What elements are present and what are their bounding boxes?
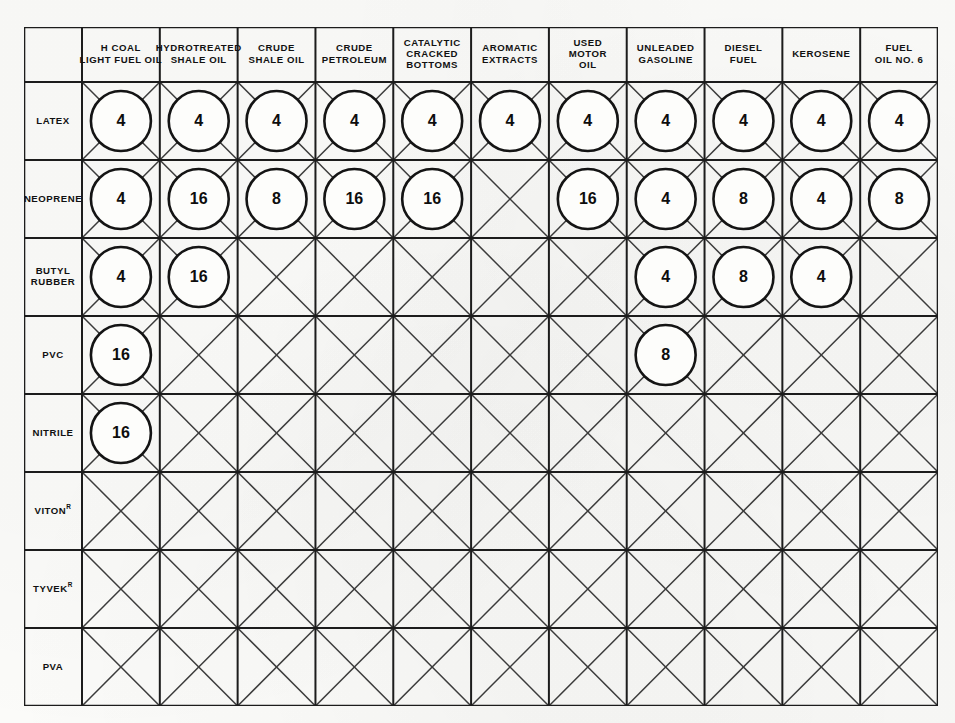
column-header-used-motor-oil: USED xyxy=(573,37,602,48)
compatibility-matrix: H COALLIGHT FUEL OILHYDROTREATEDSHALE OI… xyxy=(24,27,938,706)
scanned-page: H COALLIGHT FUEL OILHYDROTREATEDSHALE OI… xyxy=(0,0,955,723)
column-header-labels: H COALLIGHT FUEL OILHYDROTREATEDSHALE OI… xyxy=(80,37,924,70)
row-header-tyvek: TYVEKR xyxy=(33,581,73,593)
column-header-aromatic-extracts: AROMATIC xyxy=(482,42,537,53)
row-header-latex: LATEX xyxy=(36,115,70,126)
rating-value: 4 xyxy=(817,112,826,129)
column-header-h-coal-light-fuel-oil: LIGHT FUEL OIL xyxy=(80,54,163,65)
column-header-hydrotreated-shale-oil: HYDROTREATED xyxy=(156,42,242,53)
rating-value: 16 xyxy=(112,424,130,441)
column-header-diesel-fuel: FUEL xyxy=(730,54,757,65)
column-header-h-coal-light-fuel-oil: H COAL xyxy=(101,42,141,53)
row-header-viton: VITONR xyxy=(34,503,71,515)
column-header-crude-petroleum: CRUDE xyxy=(336,42,373,53)
column-header-catalytic-cracked-bottoms: BOTTOMS xyxy=(406,59,458,70)
column-header-crude-petroleum: PETROLEUM xyxy=(322,54,387,65)
rating-value: 8 xyxy=(272,190,281,207)
column-header-used-motor-oil: OIL xyxy=(579,59,597,70)
column-header-catalytic-cracked-bottoms: CRACKED xyxy=(406,48,458,59)
rating-value: 16 xyxy=(190,190,208,207)
rating-value: 8 xyxy=(895,190,904,207)
column-header-unleaded-gasoline: UNLEADED xyxy=(637,42,695,53)
rating-value: 8 xyxy=(739,268,748,285)
column-header-used-motor-oil: MOTOR xyxy=(569,48,607,59)
row-header-pva: PVA xyxy=(43,661,64,672)
column-header-diesel-fuel: DIESEL xyxy=(724,42,762,53)
rating-value: 4 xyxy=(739,112,748,129)
rating-value: 8 xyxy=(661,346,670,363)
rating-value: 4 xyxy=(428,112,437,129)
rating-value: 16 xyxy=(579,190,597,207)
rating-value: 4 xyxy=(116,190,125,207)
rating-value: 4 xyxy=(817,268,826,285)
column-header-unleaded-gasoline: GASOLINE xyxy=(638,54,693,65)
rating-value: 4 xyxy=(506,112,515,129)
rating-value: 16 xyxy=(112,346,130,363)
column-header-hydrotreated-shale-oil: SHALE OIL xyxy=(171,54,227,65)
rating-value: 4 xyxy=(116,112,125,129)
rating-value: 4 xyxy=(272,112,281,129)
column-header-aromatic-extracts: EXTRACTS xyxy=(482,54,538,65)
rating-value: 16 xyxy=(345,190,363,207)
matrix-svg: H COALLIGHT FUEL OILHYDROTREATEDSHALE OI… xyxy=(24,27,938,706)
column-header-fuel-oil-no-6: OIL NO. 6 xyxy=(875,54,924,65)
rating-value: 4 xyxy=(350,112,359,129)
registered-trademark-mark: R xyxy=(66,503,71,510)
row-header-pvc: PVC xyxy=(42,349,63,360)
rating-value: 4 xyxy=(661,190,670,207)
registered-trademark-mark: R xyxy=(68,581,73,588)
row-header-neoprene: NEOPRENE xyxy=(24,193,82,204)
rating-value: 8 xyxy=(739,190,748,207)
rating-value: 4 xyxy=(194,112,203,129)
row-header-butyl-rubber: RUBBER xyxy=(31,276,75,287)
rating-value: 4 xyxy=(661,268,670,285)
column-header-catalytic-cracked-bottoms: CATALYTIC xyxy=(404,37,461,48)
rating-value: 4 xyxy=(583,112,592,129)
rating-value: 16 xyxy=(190,268,208,285)
column-header-crude-shale-oil: CRUDE xyxy=(258,42,295,53)
rating-value: 16 xyxy=(423,190,441,207)
column-header-fuel-oil-no-6: FUEL xyxy=(885,42,912,53)
rating-value: 4 xyxy=(661,112,670,129)
rating-value: 4 xyxy=(116,268,125,285)
column-header-crude-shale-oil: SHALE OIL xyxy=(248,54,304,65)
row-header-nitrile: NITRILE xyxy=(32,427,73,438)
rating-value: 4 xyxy=(895,112,904,129)
row-header-butyl-rubber: BUTYL xyxy=(36,265,71,276)
rating-value: 4 xyxy=(817,190,826,207)
column-header-kerosene: KEROSENE xyxy=(792,48,850,59)
